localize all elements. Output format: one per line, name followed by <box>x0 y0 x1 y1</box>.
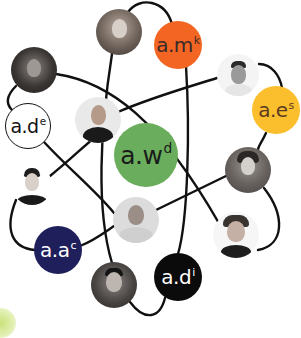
node-adi: a.di <box>154 253 202 301</box>
person-photo-bald-man <box>75 97 121 143</box>
node-label: a.ac <box>40 238 76 262</box>
face <box>25 173 39 191</box>
link-young-aac <box>10 200 35 250</box>
person-photo-right-smiling-man <box>213 212 259 258</box>
shirt <box>119 227 153 243</box>
link-bottom-adi <box>130 298 165 315</box>
shirt <box>221 245 251 258</box>
node-label: a.wd <box>120 141 171 170</box>
node-aac: a.ac <box>34 226 82 274</box>
face <box>128 205 144 225</box>
person-photo-top-woman <box>96 9 142 55</box>
node-aes: a.es <box>252 86 300 134</box>
face <box>241 157 255 175</box>
node-label: a.mk <box>156 33 199 57</box>
face <box>27 59 41 77</box>
face <box>106 272 122 292</box>
face <box>227 221 245 242</box>
link-aes-rightwoman <box>258 133 266 150</box>
link-topright-aes <box>259 64 282 88</box>
person-photo-right-woman <box>225 147 271 193</box>
link-bald-topright <box>118 78 217 112</box>
person-photo-bottom-man <box>91 262 137 308</box>
shirt <box>225 84 252 96</box>
node-awd: a.wd <box>114 123 178 187</box>
shirt <box>83 127 113 143</box>
node-amk: a.mk <box>154 21 202 69</box>
person-photo-left-young-man <box>12 165 52 205</box>
link-amk-adi <box>178 66 188 254</box>
shirt <box>17 195 47 205</box>
person-photo-topleft-woman <box>11 47 57 93</box>
face <box>91 105 106 125</box>
node-label: a.de <box>10 115 45 137</box>
face <box>112 19 127 38</box>
node-ade: a.de <box>5 103 51 149</box>
face <box>231 65 246 84</box>
link-aac-older <box>80 226 114 246</box>
link-older-rightwoman <box>156 176 226 210</box>
person-photo-topright-man <box>217 54 259 96</box>
node-label: a.di <box>161 265 194 289</box>
node-label: a.es <box>258 98 294 122</box>
link-rightwoman-smiling <box>258 188 279 250</box>
person-photo-center-older-man <box>113 197 159 243</box>
